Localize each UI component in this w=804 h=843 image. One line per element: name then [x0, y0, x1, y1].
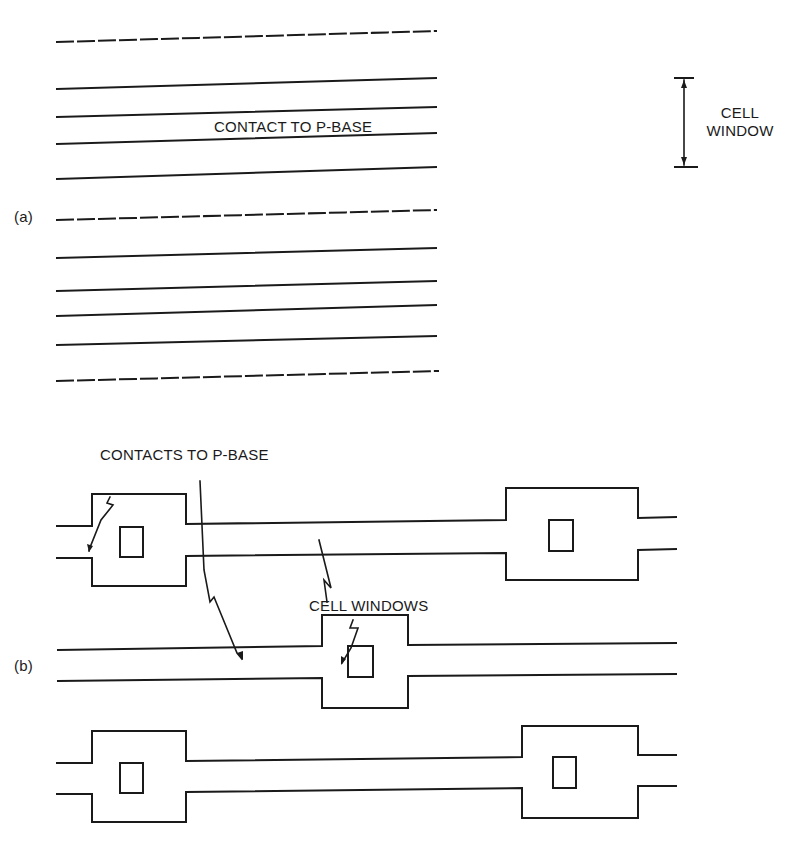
stripe-line: [57, 281, 436, 291]
stripe-line: [57, 336, 436, 345]
part-a-label: (a): [14, 208, 33, 225]
arrowhead-icon: [237, 651, 243, 660]
cell-window-label: CELL WINDOW: [696, 104, 784, 140]
figure: (a) CONTACT TO P-BASE CELL WINDOW CONTAC…: [0, 0, 804, 843]
window-outline-upper: [57, 726, 676, 763]
leader-line-contact-center: [200, 481, 242, 659]
cell-window-dimension-bracket: [675, 78, 697, 167]
contact-square: [549, 520, 573, 551]
part-b-row-1: [57, 488, 676, 586]
dashed-boundary-line: [57, 371, 438, 381]
dashed-boundary-line: [57, 31, 436, 42]
arrowhead-down-icon: [681, 157, 687, 165]
stripe-line: [57, 107, 436, 117]
window-outline-upper: [58, 615, 676, 650]
window-outline-lower: [57, 549, 676, 586]
contact-square: [120, 527, 143, 557]
window-outline-lower: [58, 674, 676, 708]
arrowhead-icon: [87, 544, 93, 552]
window-outline-upper: [57, 488, 676, 526]
cell-windows-label: CELL WINDOWS: [309, 597, 428, 614]
leader-line-window-upper: [319, 540, 331, 602]
window-outline-lower: [57, 786, 676, 822]
part-b-row-2: [58, 615, 676, 708]
part-a-stripes: [57, 31, 438, 381]
stripe-line: [57, 248, 436, 258]
dashed-boundary-line: [57, 210, 436, 220]
contact-square: [120, 763, 143, 793]
contact-square: [348, 646, 373, 677]
part-b-label: (b): [14, 657, 33, 674]
contacts-to-p-base-label: CONTACTS TO P-BASE: [100, 446, 269, 463]
contact-to-p-base-label: CONTACT TO P-BASE: [214, 118, 372, 135]
arrowhead-up-icon: [681, 80, 687, 88]
diagram-canvas: [0, 0, 804, 843]
contact-square: [553, 757, 576, 788]
stripe-line: [57, 78, 436, 89]
cell-window-label-line1: CELL: [696, 104, 784, 122]
part-b-row-3: [57, 726, 676, 822]
stripe-line: [57, 167, 436, 179]
leader-lines: [87, 481, 358, 665]
leader-line-window-lower: [342, 620, 358, 663]
stripe-line: [57, 305, 436, 316]
cell-window-label-line2: WINDOW: [696, 122, 784, 140]
